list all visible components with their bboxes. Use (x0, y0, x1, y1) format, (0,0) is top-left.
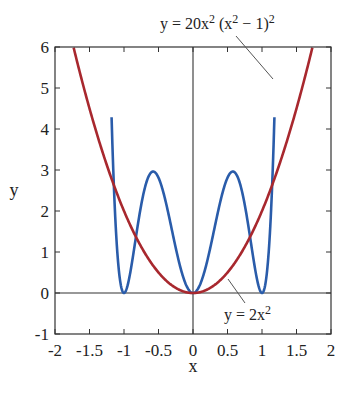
y-tick-label: -1 (35, 325, 49, 344)
x-tick-label: 1.5 (286, 341, 307, 360)
y-tick-label: 0 (41, 284, 50, 303)
y-tick-label: 6 (41, 38, 50, 57)
x-tick-label: 1 (258, 341, 267, 360)
x-tick-label: -2 (48, 341, 62, 360)
x-tick-label: 2 (327, 341, 336, 360)
quartic-leader-line (236, 36, 273, 79)
x-axis-title: x (189, 356, 198, 376)
y-axis-title: y (10, 180, 19, 200)
y-tick-label: 5 (41, 79, 50, 98)
quadratic-leader-line (228, 279, 245, 303)
y-tick-label: 3 (41, 161, 50, 180)
quartic-annotation: y = 20x2 (x2 − 1)2 (160, 12, 275, 33)
tick-labels: -2-1.5-1-0.500.511.52-10123456 (35, 38, 335, 360)
reference-lines (55, 47, 331, 334)
x-tick-label: -0.5 (145, 341, 172, 360)
quadratic-annotation: y = 2x2 (224, 303, 271, 324)
x-tick-label: -1 (117, 341, 131, 360)
x-tick-label: -1.5 (76, 341, 103, 360)
chart: -2-1.5-1-0.500.511.52-10123456 x y y = 2… (0, 0, 355, 398)
y-tick-label: 1 (41, 243, 50, 262)
x-tick-label: 0.5 (217, 341, 238, 360)
y-tick-label: 2 (41, 202, 50, 221)
y-tick-label: 4 (41, 120, 50, 139)
